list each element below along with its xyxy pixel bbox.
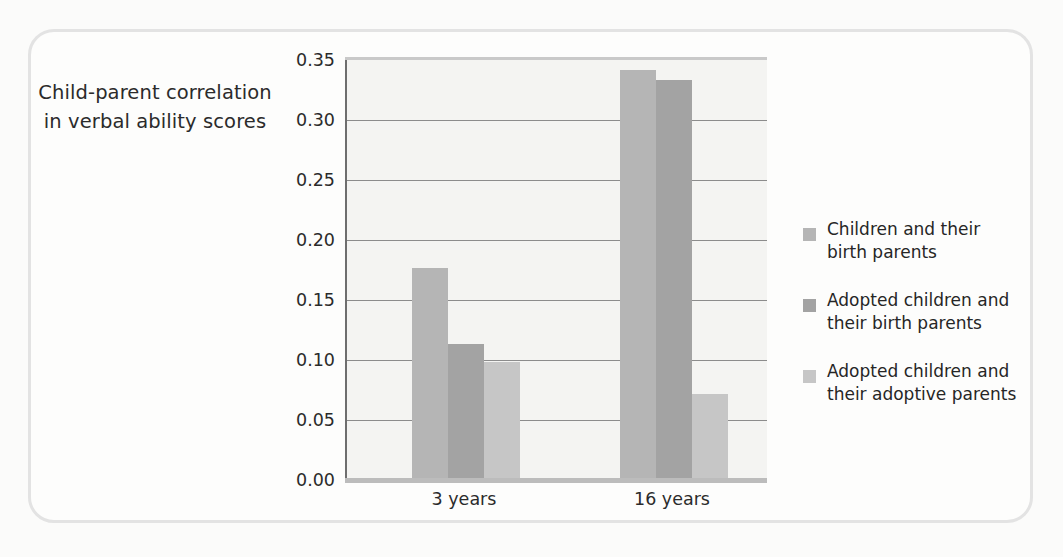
- gridline: [347, 300, 767, 301]
- y-axis-tick-label: 0.35: [273, 50, 335, 70]
- plot-baseline: [345, 478, 767, 483]
- y-axis-title-line2: in verbal ability scores: [30, 107, 280, 136]
- plot-area: [345, 60, 767, 480]
- x-axis-tick-label: 3 years: [384, 489, 544, 509]
- y-axis-title-line1: Child-parent correlation: [38, 81, 271, 104]
- bar: [448, 344, 484, 480]
- y-axis-tick-label: 0.10: [273, 350, 335, 370]
- gridline: [347, 240, 767, 241]
- x-axis-tick-label: 16 years: [592, 489, 752, 509]
- legend-item: Adopted children and their birth parents: [803, 289, 1018, 335]
- bar: [620, 70, 656, 480]
- bar: [412, 268, 448, 480]
- chart-legend: Children and their birth parentsAdopted …: [803, 218, 1018, 431]
- bar: [484, 362, 520, 480]
- y-axis-tick-label: 0.05: [273, 410, 335, 430]
- bar: [692, 394, 728, 480]
- legend-swatch-icon: [803, 228, 816, 241]
- legend-label: Adopted children and their birth parents: [827, 289, 1009, 335]
- legend-swatch-icon: [803, 370, 816, 383]
- y-axis-tick-label: 0.15: [273, 290, 335, 310]
- legend-item: Children and their birth parents: [803, 218, 1018, 264]
- y-axis-tick-label: 0.25: [273, 170, 335, 190]
- bar: [656, 80, 692, 480]
- gridline: [347, 360, 767, 361]
- y-axis-tick-label: 0.00: [273, 470, 335, 490]
- gridline: [347, 180, 767, 181]
- y-axis-tick-label: 0.30: [273, 110, 335, 130]
- y-axis-title: Child-parent correlation in verbal abili…: [30, 78, 280, 136]
- y-axis-tick-label: 0.20: [273, 230, 335, 250]
- legend-swatch-icon: [803, 299, 816, 312]
- gridline: [347, 120, 767, 121]
- legend-label: Children and their birth parents: [827, 218, 980, 264]
- y-axis-tick-labels: 0.350.300.250.200.150.100.050.00: [273, 60, 335, 480]
- legend-item: Adopted children and their adoptive pare…: [803, 360, 1018, 406]
- legend-label: Adopted children and their adoptive pare…: [827, 360, 1016, 406]
